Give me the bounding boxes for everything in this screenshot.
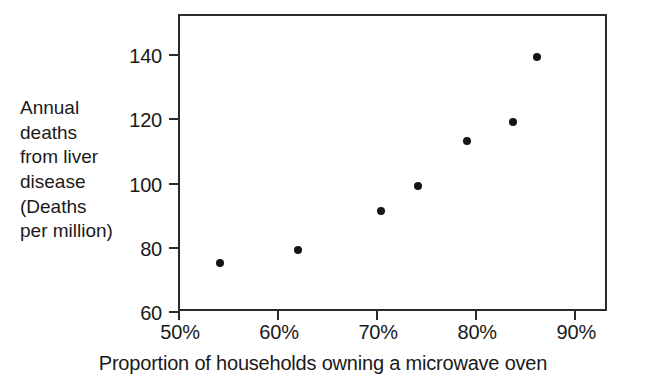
data-point <box>216 259 224 267</box>
data-point <box>533 53 541 61</box>
x-axis-tick: 60% <box>277 311 279 320</box>
y-axis-title-line-2: deaths <box>20 121 138 146</box>
x-axis-tick-label: 50% <box>160 322 199 342</box>
x-axis-tick-label: 80% <box>458 322 497 342</box>
data-point <box>509 118 517 126</box>
y-axis-tick: 100 <box>169 183 178 185</box>
y-axis-tick-label: 140 <box>129 46 162 66</box>
y-axis-title-line-1: Annual <box>20 96 138 121</box>
plot-area: 608010012014050%60%70%80%90% <box>178 14 607 311</box>
y-axis-tick: 120 <box>169 118 178 120</box>
data-point <box>377 207 385 215</box>
x-axis-tick: 50% <box>178 311 180 320</box>
y-axis-tick: 60 <box>169 311 178 313</box>
y-axis-tick: 80 <box>169 247 178 249</box>
y-axis-tick-label: 80 <box>140 239 162 259</box>
x-axis-tick-label: 60% <box>259 322 298 342</box>
y-axis-tick-label: 120 <box>129 110 162 130</box>
data-point <box>294 246 302 254</box>
y-axis-title-line-6: per million) <box>20 219 138 244</box>
y-axis-title-line-5: (Deaths <box>20 195 138 220</box>
scatter-chart: Annual deaths from liver disease (Deaths… <box>0 0 646 390</box>
x-axis-tick: 90% <box>574 311 576 320</box>
x-axis-tick: 70% <box>376 311 378 320</box>
x-axis-tick-label: 70% <box>358 322 397 342</box>
y-axis-title-line-3: from liver <box>20 145 138 170</box>
data-point <box>414 182 422 190</box>
y-axis-tick-label: 60 <box>140 303 162 323</box>
y-axis-tick-label: 100 <box>129 175 162 195</box>
y-axis-title: Annual deaths from liver disease (Deaths… <box>20 96 138 244</box>
x-axis-title: Proportion of households owning a microw… <box>0 353 646 373</box>
data-point <box>463 137 471 145</box>
y-axis-tick: 140 <box>169 54 178 56</box>
x-axis-tick: 80% <box>475 311 477 320</box>
y-axis-title-line-4: disease <box>20 170 138 195</box>
x-axis-tick-label: 90% <box>557 322 596 342</box>
